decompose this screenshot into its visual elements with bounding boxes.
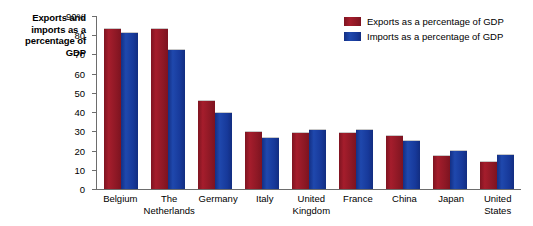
legend-item[interactable]: Exports as a percentage of GDP [344, 16, 504, 27]
legend-swatch-imports [344, 32, 361, 41]
bar-imports[interactable] [262, 137, 279, 189]
bar-chart-figure: Exports and imports as a percentage of G… [0, 0, 533, 226]
x-axis-label-line-1: The [161, 193, 177, 204]
x-axis-category-label: UnitedKingdom [288, 193, 335, 216]
y-axis-tick-label: 80 [74, 30, 85, 41]
y-axis-tick-label: 30 [74, 126, 85, 137]
x-axis-label-line-2: States [474, 205, 521, 217]
bar-exports[interactable] [433, 155, 450, 189]
y-axis-title-line-4: GDP [2, 47, 86, 59]
bar-imports[interactable] [121, 32, 138, 189]
x-axis-labels: BelgiumTheNetherlandsGermanyItalyUnitedK… [97, 193, 521, 216]
x-axis-label-line-1: Belgium [103, 193, 137, 204]
bar-group [285, 16, 332, 189]
bar-exports[interactable] [480, 161, 497, 189]
x-axis-category-label: France [335, 193, 382, 216]
bar-exports[interactable] [198, 100, 215, 189]
bar-imports[interactable] [309, 129, 326, 189]
x-axis-label-line-2: Kingdom [288, 205, 335, 217]
x-axis-line [96, 189, 521, 190]
y-axis-tick-label: 90% [66, 11, 85, 22]
y-axis-tick-label: 20 [74, 145, 85, 156]
plot-area: 0102030405060708090% [96, 16, 521, 190]
bar-imports[interactable] [356, 129, 373, 189]
legend-label: Imports as a percentage of GDP [367, 31, 503, 42]
x-axis-category-label: Germany [195, 193, 242, 216]
x-axis-label-line-1: United [484, 193, 511, 204]
x-axis-category-label: China [381, 193, 428, 216]
y-axis-title-line-2: imports as a [2, 24, 86, 36]
chart-legend: Exports as a percentage of GDPImports as… [344, 16, 504, 42]
y-axis-tick-label: 0 [80, 184, 85, 195]
legend-label: Exports as a percentage of GDP [367, 16, 504, 27]
y-axis-tick: 0 [92, 189, 97, 190]
bar-group [97, 16, 144, 189]
bar-exports[interactable] [151, 28, 168, 189]
y-axis-tick-label: 10 [74, 164, 85, 175]
legend-item[interactable]: Imports as a percentage of GDP [344, 31, 504, 42]
x-axis-label-line-1: Italy [256, 193, 273, 204]
bar-group [144, 16, 191, 189]
x-axis-label-line-1: France [343, 193, 373, 204]
bar-imports[interactable] [497, 154, 514, 189]
x-axis-label-line-1: Germany [199, 193, 238, 204]
y-axis-tick-label: 60 [74, 68, 85, 79]
x-axis-label-line-1: Japan [438, 193, 464, 204]
y-axis-tick-label: 70 [74, 49, 85, 60]
x-axis-category-label: TheNetherlands [144, 193, 195, 216]
bar-imports[interactable] [403, 140, 420, 189]
x-axis-label-line-1: United [298, 193, 325, 204]
y-axis-tick-label: 40 [74, 107, 85, 118]
bar-exports[interactable] [292, 132, 309, 189]
bar-exports[interactable] [104, 28, 121, 189]
bar-imports[interactable] [215, 112, 232, 189]
bar-imports[interactable] [450, 150, 467, 189]
bar-group [238, 16, 285, 189]
x-axis-category-label: UnitedStates [474, 193, 521, 216]
bar-imports[interactable] [168, 49, 185, 189]
x-axis-label-line-2: Netherlands [144, 205, 195, 217]
x-axis-category-label: Japan [428, 193, 475, 216]
bar-group [191, 16, 238, 189]
x-axis-category-label: Belgium [97, 193, 144, 216]
bar-exports[interactable] [339, 132, 356, 189]
y-axis-title-line-3: percentage of [2, 35, 86, 47]
y-axis-tick-label: 50 [74, 87, 85, 98]
x-axis-category-label: Italy [241, 193, 288, 216]
bar-exports[interactable] [386, 135, 403, 189]
legend-swatch-exports [344, 17, 361, 26]
bar-exports[interactable] [245, 131, 262, 189]
x-axis-label-line-1: China [392, 193, 417, 204]
